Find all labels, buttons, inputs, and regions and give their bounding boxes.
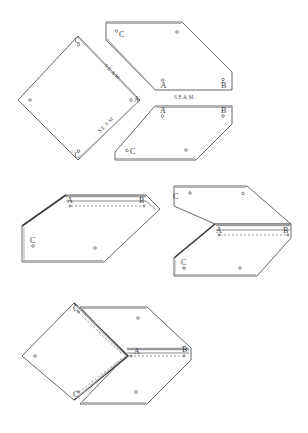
vertex-label-c-bottom: C [73,390,78,399]
anchor-point-a [129,354,132,357]
vertex-label-c: C [130,147,135,156]
vertex-label-a: A [216,226,222,235]
vertex-label-b: B [182,345,187,354]
step-partial-fold-right: C A B C [173,186,291,276]
step-assembled-3d: C C A B [22,303,191,404]
vertex-label-c-top: C [73,304,78,313]
vertex-label-a-right: A [134,96,140,104]
technical-diagram-svg: C C A C A B [0,0,308,433]
anchor-point-a [69,205,72,208]
vertex-label-c-top: C [75,37,80,45]
seam-label-horizontal: SEAM [174,94,195,100]
vertex-label-b: B [221,81,226,90]
vertex-label-b: B [221,106,226,115]
vertex-label-a: A [161,81,167,90]
anchor-point-b [183,355,186,358]
vertex-label-c: C [30,236,35,245]
step-flat-pattern: C C A C A B [18,22,232,160]
vertex-label-c: C [181,258,186,267]
upper-pentagon-panel: C A B [106,22,232,90]
vertex-label-c: C [173,192,178,201]
vertex-label-a: A [160,106,166,115]
anchor-point-b [143,205,146,208]
step-partial-fold-left: A B C [22,195,160,262]
vertex-label-a: A [67,196,73,205]
vertex-label-b: B [139,196,144,205]
vertex-label-c: C [119,30,124,39]
vertex-label-c-bottom: C [75,152,80,160]
lower-pentagon-panel: A B C [115,106,232,160]
vertex-label-b: B [283,226,288,235]
vertex-label-a: A [134,347,140,356]
